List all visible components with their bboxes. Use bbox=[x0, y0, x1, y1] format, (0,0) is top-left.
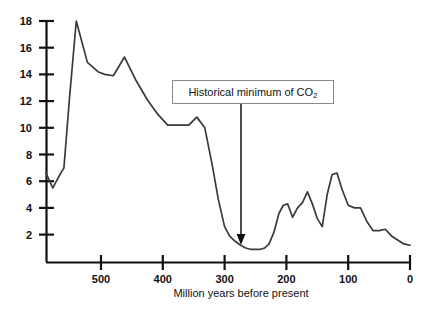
y-tick-label-8: 8 bbox=[8, 149, 32, 160]
y-tick-label-18: 18 bbox=[8, 16, 32, 27]
annotation-text-subscript: 2 bbox=[313, 91, 317, 100]
y-tick-label-10: 10 bbox=[8, 122, 32, 133]
annotation-callout-box: Historical minimum of CO2 bbox=[172, 80, 334, 104]
y-tick-label-14: 14 bbox=[8, 69, 32, 80]
x-tick-label-0: 0 bbox=[407, 274, 413, 285]
annotation-arrow bbox=[237, 104, 246, 245]
y-tick-label-4: 4 bbox=[8, 202, 32, 213]
y-tick-label-16: 16 bbox=[8, 42, 32, 53]
y-tick-label-12: 12 bbox=[8, 96, 32, 107]
x-tick-label-300: 300 bbox=[215, 274, 233, 285]
chart-plot-area bbox=[0, 0, 421, 314]
y-tick-label-2: 2 bbox=[8, 229, 32, 240]
annotation-callout-text: Historical minimum of CO2 bbox=[188, 87, 317, 98]
x-tick-label-200: 200 bbox=[277, 274, 295, 285]
y-tick-label-6: 6 bbox=[8, 176, 32, 187]
annotation-text-prefix: Historical minimum of CO bbox=[188, 86, 313, 98]
x-tick-label-400: 400 bbox=[154, 274, 172, 285]
x-axis-title: Million years before present bbox=[173, 288, 308, 299]
x-tick-label-100: 100 bbox=[339, 274, 357, 285]
x-tick-label-500: 500 bbox=[92, 274, 110, 285]
co2-history-chart: 18 16 14 12 10 8 6 4 2 500 400 300 200 1… bbox=[0, 0, 421, 314]
co2-data-line bbox=[46, 21, 410, 249]
